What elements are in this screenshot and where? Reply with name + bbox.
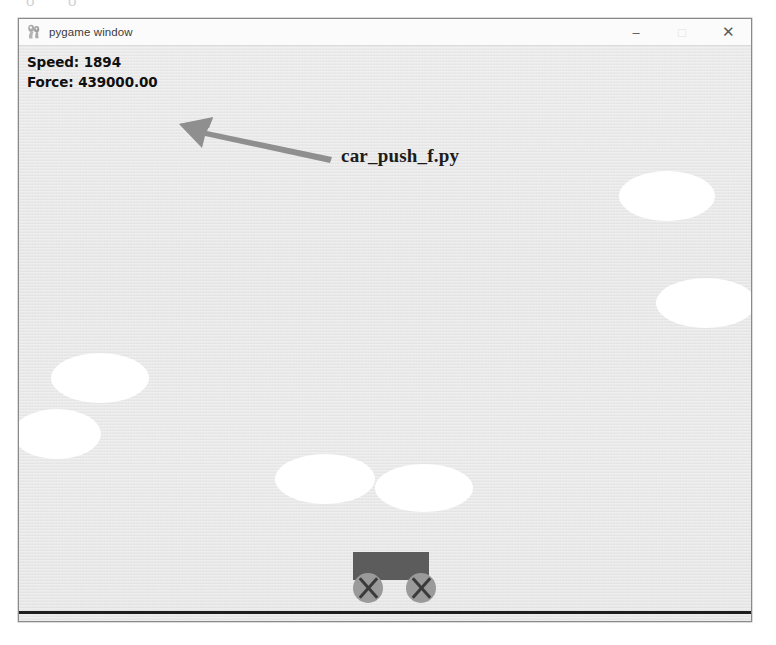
hud-panel: Speed: 1894 Force: 439000.00 <box>27 53 158 92</box>
cloud-ellipse <box>656 278 751 328</box>
speed-readout: Speed: 1894 <box>27 53 158 73</box>
scan-artifacts: o o <box>0 0 776 14</box>
cloud-ellipse <box>619 171 715 221</box>
maximize-icon[interactable]: □ <box>659 19 705 45</box>
cloud-ellipse <box>51 353 149 403</box>
window-title-bar[interactable]: pygame window – □ ✕ <box>19 19 751 46</box>
cloud-ellipse <box>19 409 101 459</box>
minimize-icon[interactable]: – <box>613 19 659 45</box>
force-readout: Force: 439000.00 <box>27 73 158 93</box>
pygame-logo-icon <box>26 24 42 40</box>
annotation-label: car_push_f.py <box>341 145 459 167</box>
close-icon[interactable]: ✕ <box>705 19 751 45</box>
ground-line <box>19 611 751 614</box>
pygame-window: pygame window – □ ✕ Speed: 1894 Force: 4… <box>18 18 752 622</box>
car-wheel-rear <box>353 573 383 603</box>
window-title-text: pygame window <box>49 26 133 38</box>
car-wheel-front <box>406 573 436 603</box>
game-canvas[interactable]: Speed: 1894 Force: 439000.00 car_push_f.… <box>19 46 751 621</box>
scan-artifact-glyph: o <box>68 0 77 11</box>
annotation-arrow-icon <box>169 101 349 171</box>
cloud-ellipse <box>275 454 375 504</box>
scan-artifact-glyph: o <box>26 0 35 11</box>
cloud-ellipse <box>375 464 473 512</box>
